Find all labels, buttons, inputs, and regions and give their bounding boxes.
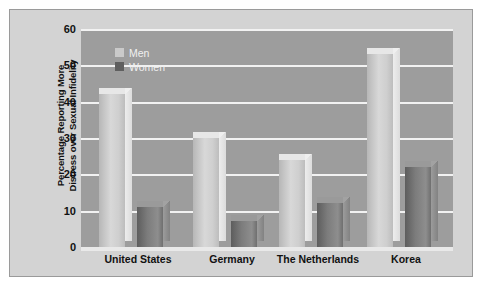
legend-entry-men: Men (115, 46, 165, 59)
legend-label-men: Men (129, 47, 149, 59)
bar-men-germany (193, 138, 219, 247)
bar-top-panel (193, 132, 219, 138)
y-tick-30: 30 (48, 132, 76, 144)
bar-top-panel (405, 161, 431, 167)
bar-men-korea (367, 54, 393, 247)
bar-side-panel (431, 161, 438, 241)
y-tick-40: 40 (48, 96, 76, 108)
bar-top-panel (231, 215, 257, 221)
legend-label-women: Women (129, 61, 165, 73)
bar-face (317, 203, 343, 247)
bar-side-panel (343, 197, 350, 241)
bar-women-united-states (137, 207, 163, 247)
chart-card: Percentage Reporting More Distress over … (9, 9, 473, 277)
bar-face (231, 221, 257, 247)
bar-corner-panel (163, 201, 170, 207)
bar-men-united-states (99, 94, 125, 247)
bar-corner-panel (343, 197, 350, 203)
x-label-germany: Germany (209, 253, 255, 265)
y-tick-20: 20 (48, 168, 76, 180)
bar-face (279, 160, 305, 247)
bar-top-panel (317, 197, 343, 203)
bar-top-panel (367, 48, 393, 54)
bar-corner-panel (305, 154, 312, 160)
y-tick-60: 60 (48, 23, 76, 35)
bar-top-panel (279, 154, 305, 160)
bar-face (99, 94, 125, 247)
bar-side-panel (163, 201, 170, 241)
x-axis-tick-labels: United States Germany The Netherlands Ko… (81, 253, 453, 269)
chart-legend: Men Women (115, 46, 165, 74)
bar-top-panel (137, 201, 163, 207)
bar-group-korea (367, 29, 445, 247)
bar-women-germany (231, 221, 257, 247)
chart-figure: Percentage Reporting More Distress over … (0, 0, 482, 286)
legend-swatch-men-icon (115, 48, 124, 57)
bar-men-the-netherlands (279, 160, 305, 247)
y-tick-0: 0 (48, 241, 76, 253)
bar-face (193, 138, 219, 247)
bar-corner-panel (431, 161, 438, 167)
x-label-korea: Korea (391, 253, 421, 265)
y-tick-50: 50 (48, 59, 76, 71)
legend-entry-women: Women (115, 60, 165, 73)
bar-group-the-netherlands (279, 29, 357, 247)
x-label-united-states: United States (104, 253, 171, 265)
legend-swatch-women-icon (115, 62, 124, 71)
axis-baseline (81, 247, 453, 251)
bar-corner-panel (125, 88, 132, 94)
bar-side-panel (393, 48, 400, 241)
bar-side-panel (305, 154, 312, 241)
bar-face (137, 207, 163, 247)
bar-corner-panel (257, 215, 264, 221)
x-label-the-netherlands: The Netherlands (277, 253, 359, 265)
bar-side-panel (125, 88, 132, 241)
bar-women-korea (405, 167, 431, 247)
bar-corner-panel (393, 48, 400, 54)
bar-face (367, 54, 393, 247)
y-axis-tick-labels: 60 50 40 30 20 10 0 (48, 10, 76, 278)
bar-side-panel (219, 132, 226, 241)
bar-corner-panel (219, 132, 226, 138)
y-tick-10: 10 (48, 205, 76, 217)
bar-top-panel (99, 88, 125, 94)
bar-group-germany (193, 29, 271, 247)
bar-face (405, 167, 431, 247)
bar-women-the-netherlands (317, 203, 343, 247)
